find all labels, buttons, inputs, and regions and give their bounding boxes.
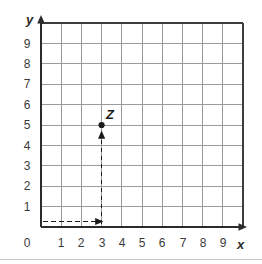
point-z-label: Z bbox=[106, 108, 114, 122]
x-axis bbox=[41, 223, 247, 231]
y-tick-label-5: 5 bbox=[20, 118, 34, 132]
y-tick-label-6: 6 bbox=[20, 98, 34, 112]
y-tick-label-3: 3 bbox=[20, 159, 34, 173]
x-tick-label-4: 4 bbox=[115, 236, 129, 250]
coordinate-grid-figure: y x Z 0 1 2 3 4 5 6 7 8 9 1 2 3 4 5 6 7 … bbox=[0, 0, 262, 264]
point-z-marker bbox=[99, 122, 105, 128]
y-tick-label-8: 8 bbox=[20, 57, 34, 71]
x-tick-label-8: 8 bbox=[196, 236, 210, 250]
coordinate-plane bbox=[0, 0, 262, 264]
y-tick-label-7: 7 bbox=[20, 77, 34, 91]
origin-tick-label: 0 bbox=[20, 236, 34, 250]
y-tick-label-4: 4 bbox=[20, 139, 34, 153]
x-axis-label: x bbox=[237, 238, 244, 252]
y-tick-label-1: 1 bbox=[20, 200, 34, 214]
x-tick-label-5: 5 bbox=[135, 236, 149, 250]
y-axis-label: y bbox=[26, 13, 33, 27]
y-tick-label-2: 2 bbox=[20, 179, 34, 193]
x-tick-label-7: 7 bbox=[176, 236, 190, 250]
x-tick-label-2: 2 bbox=[74, 236, 88, 250]
y-axis bbox=[37, 15, 45, 227]
y-tick-label-9: 9 bbox=[20, 37, 34, 51]
horizontal-guide-line bbox=[43, 218, 103, 225]
x-tick-label-1: 1 bbox=[54, 236, 68, 250]
x-tick-label-3: 3 bbox=[95, 236, 109, 250]
x-tick-label-9: 9 bbox=[216, 236, 230, 250]
x-tick-label-6: 6 bbox=[155, 236, 169, 250]
bottom-divider bbox=[0, 259, 262, 260]
